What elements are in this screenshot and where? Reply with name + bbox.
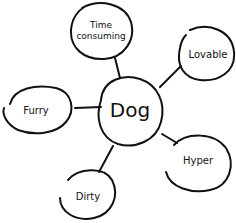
- branch-node-furry-label: Furry: [23, 105, 49, 116]
- connector-lovable: [160, 66, 181, 87]
- branch-node-dirty: Dirty: [60, 170, 115, 219]
- branch-node-time-consuming-label-line-1: Time: [89, 20, 112, 30]
- branch-node-hyper-label: Hyper: [183, 155, 214, 166]
- branch-node-lovable: Lovable: [179, 27, 234, 80]
- branch-node-time-consuming: Time consuming: [71, 3, 132, 59]
- connector-dirty: [99, 146, 113, 172]
- branch-node-furry: Furry: [4, 87, 72, 134]
- connector-hyper: [162, 134, 177, 143]
- branch-node-lovable-label: Lovable: [189, 49, 228, 60]
- center-node-label: Dog: [110, 98, 150, 122]
- connector-furry: [75, 107, 101, 108]
- branch-node-hyper: Hyper: [166, 136, 231, 192]
- center-node-dog: Dog: [99, 77, 163, 145]
- branch-node-time-consuming-label-line-2: consuming: [76, 31, 125, 41]
- mind-map-diagram: Dog Time consuming Lovable Furry Hyper D…: [0, 0, 236, 223]
- connector-time-consuming: [115, 58, 120, 78]
- branch-node-dirty-label: Dirty: [76, 191, 101, 202]
